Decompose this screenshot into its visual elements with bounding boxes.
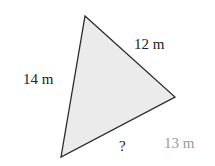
side-label-13m: 13 m [164, 136, 194, 151]
triangle-diagram: 12 m 14 m ? 13 m [0, 0, 215, 166]
side-label-12m: 12 m [134, 37, 164, 52]
side-label-unknown: ? [119, 139, 126, 154]
side-label-14m: 14 m [23, 72, 53, 87]
